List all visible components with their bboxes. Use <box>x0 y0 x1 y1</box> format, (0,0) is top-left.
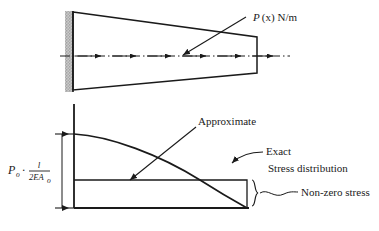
formula-base-subscript: o <box>16 170 20 179</box>
formula-denominator: 2EA <box>29 172 44 182</box>
load-label-variable: (x) <box>262 11 275 24</box>
load-label-symbol: P <box>252 11 260 23</box>
fixed-support-wall <box>65 11 73 92</box>
engineering-figure: P(x)N/m P o · l <box>0 0 379 231</box>
load-label-units: N/m <box>278 11 298 23</box>
stress-distribution-label: Stress distribution <box>268 162 348 174</box>
figure-canvas: P(x)N/m P o · l <box>0 0 379 231</box>
non-zero-stress-label: Non-zero stress <box>301 186 370 198</box>
formula-denominator-subscript: o <box>47 176 51 185</box>
approximate-label: Approximate <box>198 115 256 127</box>
exact-label: Exact <box>266 145 291 157</box>
formula-base: P <box>7 163 16 177</box>
formula-separator: · <box>22 163 25 177</box>
